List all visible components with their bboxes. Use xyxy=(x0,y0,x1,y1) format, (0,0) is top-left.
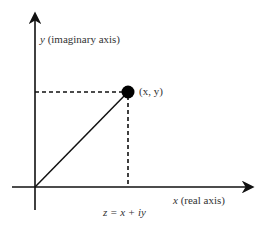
point-marker xyxy=(122,86,135,99)
point-label: (x, y) xyxy=(139,85,163,98)
equation-label: z = x + iy xyxy=(102,206,146,218)
y-axis-label: y (imaginary axis) xyxy=(39,33,120,46)
x-axis-label: x (real axis) xyxy=(172,194,225,207)
vector-line xyxy=(35,92,128,187)
complex-plane-diagram: y (imaginary axis) (x, y) x (real axis) … xyxy=(0,0,269,231)
